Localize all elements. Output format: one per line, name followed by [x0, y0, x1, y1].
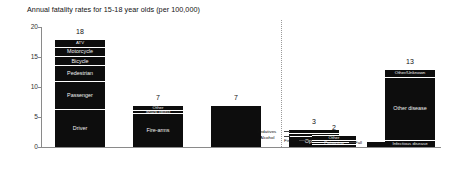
leader-firearms-accident	[299, 140, 308, 141]
segment-suicide[interactable]	[211, 105, 261, 147]
chart-title: Annual fatality rates for 15-18 year old…	[27, 5, 200, 14]
leader-fall	[349, 142, 356, 143]
bar-value-suicide: 7	[234, 94, 238, 101]
segment-label-passenger: Passenger	[67, 93, 93, 99]
segment-passenger[interactable]: Passenger	[55, 81, 105, 109]
bar-suicide[interactable]: 7 Suicide	[211, 105, 261, 147]
segment-label-atv: ATV	[76, 41, 84, 45]
bar-other[interactable]: 13 Other/Unknown Other disease Infectiou…	[385, 69, 435, 147]
segment-motorcycle[interactable]: Motorcycle	[55, 47, 105, 57]
group-divider	[281, 20, 282, 147]
segment-label-other-unknown: Other/Unknown	[395, 71, 426, 75]
chart-container: Annual fatality rates for 15-18 year old…	[0, 0, 451, 188]
segment-label-infectious-disease: Infectious disease	[392, 142, 427, 146]
bar-value-transportation-accident: 18	[76, 28, 84, 35]
segment-infectious-disease[interactable]: Infectious disease	[385, 140, 435, 147]
leader-sedatives	[284, 131, 290, 132]
callout-sedatives: Sedatives	[257, 129, 276, 134]
segment-label-other-disease: Other disease	[393, 106, 427, 112]
bar-value-homicide: 7	[156, 94, 160, 101]
y-tick-mark-15	[38, 57, 41, 58]
segment-pedestrian[interactable]: Pedestrian	[55, 65, 105, 81]
bar-homicide[interactable]: 7 Other Sharp object Fire-arms Homicide	[133, 105, 183, 147]
leader-alcohol	[284, 136, 290, 137]
x-axis-line	[41, 147, 441, 148]
bar-value-drug-overdose: 3	[312, 118, 316, 125]
y-tick-mark-20	[38, 27, 41, 28]
segment-label-motorcycle: Motorcycle	[67, 49, 93, 55]
y-tick-mark-5	[38, 117, 41, 118]
segment-label-bicycle: Bicycle	[71, 59, 88, 65]
segment-other-disease[interactable]: Other disease	[385, 77, 435, 139]
segment-bicycle[interactable]: Bicycle	[55, 56, 105, 65]
segment-label-firearms-homicide: Fire-arms	[143, 128, 173, 133]
segment-firearms-homicide[interactable]: Fire-arms	[133, 113, 183, 147]
segment-label-driver: Driver	[73, 126, 87, 132]
y-tick-label-10: 10	[31, 84, 38, 91]
callout-alcohol: Alcohol	[260, 135, 274, 140]
segment-firearms-accident[interactable]	[312, 144, 356, 147]
bar-transportation-accident[interactable]: 18 ATV Motorcycle Bicycle Pedestrian Pas…	[55, 39, 105, 147]
bar-value-other: 13	[406, 58, 414, 65]
y-tick-mark-0	[38, 147, 41, 148]
segment-driver[interactable]: Driver	[55, 109, 105, 147]
y-tick-label-15: 15	[31, 54, 38, 61]
callout-fall: Fall	[355, 140, 362, 145]
y-tick-mark-10	[38, 87, 41, 88]
segment-other-unknown[interactable]: Other/Unknown	[385, 69, 435, 77]
segment-atv[interactable]: ATV	[55, 39, 105, 47]
plot-area: 0 5 10 15 20 18 ATV Motorcycle	[41, 27, 441, 147]
y-tick-label-20: 20	[31, 24, 38, 31]
bar-value-other-accident: 2	[332, 124, 336, 131]
segment-label-pedestrian: Pedestrian	[67, 71, 93, 77]
